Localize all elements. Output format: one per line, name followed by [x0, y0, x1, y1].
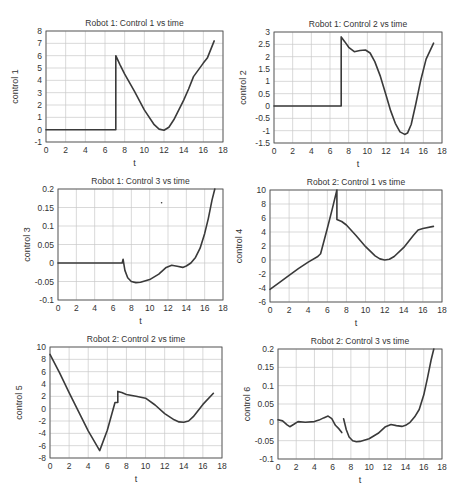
grid [278, 349, 442, 459]
x-tick-labels: 024681012141618 [276, 462, 447, 472]
series-line [46, 41, 214, 130]
chart-title: Robot 1: Control 3 vs time [91, 176, 190, 186]
y-tick-label: -4 [258, 283, 266, 293]
y-tick-labels: -8-6-4-20246810 [37, 342, 47, 463]
y-tick-label: 7 [37, 38, 42, 48]
x-tick-label: 12 [381, 146, 391, 156]
x-tick-label: 4 [92, 303, 97, 313]
y-tick-label: 3 [265, 27, 270, 37]
plot-frame [274, 32, 442, 143]
y-tick-label: -0.5 [255, 113, 270, 123]
y-tick-label: 8 [41, 354, 46, 364]
x-tick-label: 14 [179, 461, 189, 471]
y-axis-label: control 5 [14, 385, 24, 420]
x-axis-label: t [135, 474, 138, 484]
y-axis-label: control 6 [242, 387, 252, 422]
y-tick-label: 1 [37, 112, 42, 122]
x-tick-labels: 024681012141618 [268, 305, 447, 315]
plot-frame [46, 31, 223, 142]
x-tick-label: 8 [346, 146, 351, 156]
x-tick-label: 8 [124, 461, 129, 471]
y-tick-label: 0.15 [37, 203, 54, 213]
y-tick-label: 0 [37, 125, 42, 135]
x-tick-label: 12 [159, 145, 169, 155]
x-tick-label: 0 [272, 146, 277, 156]
y-axis-label: control 3 [22, 227, 32, 262]
x-tick-label: 0 [56, 303, 61, 313]
y-tick-label: -6 [38, 441, 46, 451]
y-tick-label: -2 [38, 416, 46, 426]
chart-title: Robot 1: Control 2 vs time [309, 19, 408, 29]
series-line [58, 189, 215, 283]
grid [46, 31, 223, 142]
chart-title: Robot 2: Control 2 vs time [87, 334, 186, 344]
y-tick-label: 3 [37, 88, 42, 98]
x-tick-label: 16 [199, 145, 209, 155]
x-tick-label: 12 [163, 303, 173, 313]
chart-c3: 024681012141618-0.1-0.0500.050.10.150.2R… [22, 176, 228, 326]
x-tick-label: 2 [294, 462, 299, 472]
x-tick-labels: 024681012141618 [272, 146, 447, 156]
x-axis-label: t [139, 316, 142, 326]
x-tick-label: 4 [312, 462, 317, 472]
x-tick-label: 6 [330, 462, 335, 472]
x-tick-label: 16 [418, 305, 428, 315]
x-axis-label: t [357, 159, 360, 169]
x-tick-label: 16 [200, 303, 210, 313]
x-tick-label: 14 [179, 145, 189, 155]
y-tick-label: 0 [265, 101, 270, 111]
x-tick-label: 14 [182, 303, 192, 313]
x-tick-label: 12 [380, 305, 390, 315]
x-tick-label: 6 [111, 303, 116, 313]
x-tick-label: 2 [67, 461, 72, 471]
x-tick-label: 8 [129, 303, 134, 313]
x-tick-label: 12 [160, 461, 170, 471]
x-tick-label: 14 [399, 305, 409, 315]
y-tick-label: 0 [41, 404, 46, 414]
y-tick-label: 0.05 [37, 240, 54, 250]
x-tick-label: 8 [349, 462, 354, 472]
y-tick-label: 5 [37, 63, 42, 73]
y-tick-label: -4 [38, 428, 46, 438]
grid [270, 190, 442, 302]
y-tick-label: 0.5 [258, 89, 270, 99]
x-tick-label: 18 [218, 145, 228, 155]
x-tick-label: 0 [276, 462, 281, 472]
y-tick-labels: -1.5-1-0.500.511.522.53 [255, 27, 270, 148]
x-tick-label: 0 [44, 145, 49, 155]
y-tick-label: -0.1 [39, 295, 54, 305]
grid [58, 189, 223, 300]
y-tick-label: 10 [257, 185, 267, 195]
y-tick-label: 1.5 [258, 64, 270, 74]
x-tick-labels: 024681012141618 [44, 145, 228, 155]
x-axis-label: t [133, 158, 136, 168]
x-tick-label: 0 [268, 305, 273, 315]
y-tick-labels: -1012345678 [34, 26, 42, 147]
y-tick-label: 0.15 [257, 362, 274, 372]
plot-frame [50, 347, 222, 458]
y-tick-label: 2 [261, 241, 266, 251]
series-line [278, 416, 342, 433]
x-tick-label: 14 [401, 462, 411, 472]
y-tick-label: 4 [37, 75, 42, 85]
chart-c2: 024681012141618-1.5-1-0.500.511.522.53Ro… [238, 19, 447, 169]
y-tick-label: -1.5 [255, 138, 270, 148]
x-axis-label: t [359, 475, 362, 485]
y-tick-labels: -6-4-20246810 [257, 185, 267, 307]
x-tick-label: 14 [400, 146, 410, 156]
x-tick-label: 18 [437, 146, 447, 156]
y-tick-label: 6 [41, 367, 46, 377]
series-line [270, 190, 433, 289]
x-tick-label: 8 [344, 305, 349, 315]
x-tick-labels: 024681012141618 [56, 303, 228, 313]
x-tick-label: 16 [419, 146, 429, 156]
y-tick-label: 0 [49, 258, 54, 268]
x-tick-label: 10 [141, 461, 151, 471]
x-tick-label: 2 [287, 305, 292, 315]
x-tick-label: 10 [363, 146, 373, 156]
x-tick-label: 16 [198, 461, 208, 471]
x-tick-label: 18 [437, 305, 447, 315]
y-tick-label: 4 [261, 227, 266, 237]
x-tick-label: 12 [383, 462, 393, 472]
y-tick-label: -0.1 [259, 454, 274, 464]
